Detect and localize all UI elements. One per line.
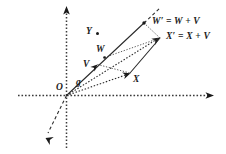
label-origin: O [56,83,63,93]
axes-group [18,6,214,148]
horizontal-axis-arrowhead [206,92,215,99]
label-W-prime-equation: W′ = W + V [152,17,200,27]
point-W-prime-dot [142,21,145,24]
label-X: X [133,75,139,85]
label-g: g [76,78,81,88]
lower-left-ray-arrowhead [44,134,54,145]
point-W-dot [103,56,106,59]
vector-diagram: O g V W X Y W′ = W + V X′ = X + V [0,0,226,154]
lower-left-ray [48,96,67,134]
point-V-arrowhead [90,62,99,71]
translation-ties-group [98,23,161,73]
point-Y-dot [96,32,99,35]
label-W: W [96,45,104,55]
label-Y: Y [86,27,92,37]
label-V: V [83,60,89,70]
segment-X-to-X-prime [130,38,160,73]
vertical-axis-arrowhead [63,6,70,15]
vector-X-prime-arrowhead [151,35,162,45]
label-X-prime-equation: X′ = X + V [166,32,210,42]
lower-left-ray-group [44,96,67,146]
